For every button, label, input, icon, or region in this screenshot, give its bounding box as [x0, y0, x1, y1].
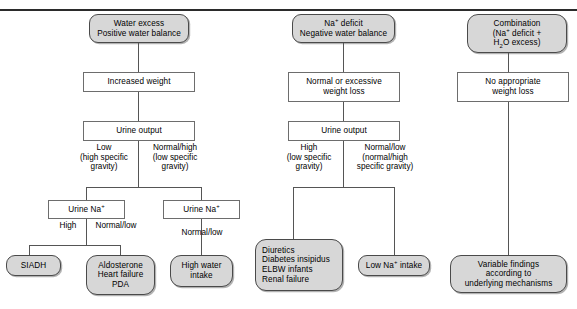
edge-no-weight-loss-to-variable-findings [508, 102, 509, 255]
node-na-deficit-root: Na+ deficit Negative water balance [292, 14, 395, 43]
node-urine-output-left-label: Urine output [113, 126, 165, 136]
edge-label-mid-normallow-specific-gravity: Normal/low (normal/high specific gravity… [346, 143, 424, 172]
node-outcome-siadh-label: SIADH [18, 261, 49, 271]
node-outcome-aldosterone-label: Aldosterone Heart failure PDA [95, 261, 147, 290]
edge-weight-to-urine-output-left [138, 92, 139, 121]
edge-urine-output-mid-stem [343, 141, 344, 187]
node-urine-output-mid-label: Urine output [318, 126, 370, 136]
node-outcome-diuretics-list: Diuretics Diabetes insipidus ELBW infant… [255, 239, 343, 291]
node-outcome-low-na-intake: Low Na+ intake [358, 255, 430, 276]
node-outcome-siadh: SIADH [6, 255, 61, 276]
edge-drop-to-low-na-intake [394, 187, 395, 255]
edge-na-deficit-to-weight-loss [343, 43, 344, 72]
edge-drop-to-siadh [29, 245, 30, 255]
node-combination-root-label: Combination (Na+ deficit + H2O excess) [490, 19, 545, 48]
flowchart-canvas: Water excess Positive water balance Incr… [0, 0, 577, 309]
edge-split-bar-urine-na [86, 187, 202, 188]
node-water-excess-root: Water excess Positive water balance [89, 14, 189, 43]
node-urine-na-left: Urine Na+ [48, 200, 125, 219]
edge-urine-output-left-stem [138, 141, 139, 187]
node-normal-excessive-weight-loss-label: Normal or excessive weight loss [303, 77, 385, 96]
edge-label-left-normalhigh-specific-gravity: Normal/high (low specific gravity) [142, 143, 208, 172]
node-increased-weight: Increased weight [83, 72, 195, 92]
top-divider-rule [0, 9, 577, 11]
node-combination-root: Combination (Na+ deficit + H2O excess) [467, 14, 567, 53]
edge-combination-to-no-weight-loss [508, 53, 509, 72]
edge-urine-na-left-stem [86, 219, 87, 245]
node-increased-weight-label: Increased weight [104, 77, 173, 87]
edge-water-excess-to-weight [138, 43, 139, 72]
node-no-appropriate-weight-loss: No appropriate weight loss [457, 72, 569, 102]
node-urine-na-right: Urine Na+ [163, 200, 240, 219]
edge-drop-to-aldosterone [120, 245, 121, 255]
node-outcome-diuretics-list-label: Diuretics Diabetes insipidus ELBW infant… [256, 246, 342, 284]
node-water-excess-root-label: Water excess Positive water balance [94, 19, 184, 38]
node-urine-na-left-label: Urine Na+ [65, 205, 108, 215]
edge-label-normal-low: Normal/low [90, 221, 142, 231]
node-outcome-high-water-intake: High water intake [170, 255, 233, 287]
node-normal-excessive-weight-loss: Normal or excessive weight loss [288, 72, 400, 102]
node-urine-output-mid: Urine output [288, 121, 400, 141]
node-outcome-high-water-intake-label: High water intake [179, 261, 225, 280]
edge-label-high: High [52, 221, 84, 231]
node-outcome-variable-findings: Variable findings according to underlyin… [450, 255, 567, 293]
edge-weight-loss-to-urine-output-mid [343, 102, 344, 121]
node-outcome-variable-findings-label: Variable findings according to underlyin… [462, 260, 556, 289]
edge-split-bar-mid-outcomes [293, 187, 395, 188]
node-urine-output-left: Urine output [83, 121, 195, 141]
edge-label-mid-high-low-specific-gravity: High (low specific gravity) [278, 143, 340, 172]
node-outcome-aldosterone: Aldosterone Heart failure PDA [86, 255, 155, 295]
node-outcome-low-na-intake-label: Low Na+ intake [363, 261, 426, 271]
node-na-deficit-root-label: Na+ deficit Negative water balance [297, 19, 390, 38]
edge-split-right-drop-urine-na-b [201, 187, 202, 200]
edge-label-normal-low-right: Normal/low [176, 228, 228, 238]
node-urine-na-right-label: Urine Na+ [180, 205, 223, 215]
edge-split-bar-siadh-aldosterone [29, 245, 120, 246]
edge-label-left-low-specific-gravity: Low (high specific gravity) [73, 143, 135, 172]
edge-drop-to-diuretics-list [293, 187, 294, 239]
node-no-appropriate-weight-loss-label: No appropriate weight loss [482, 77, 543, 96]
edge-split-left-drop-urine-na-a [86, 187, 87, 200]
